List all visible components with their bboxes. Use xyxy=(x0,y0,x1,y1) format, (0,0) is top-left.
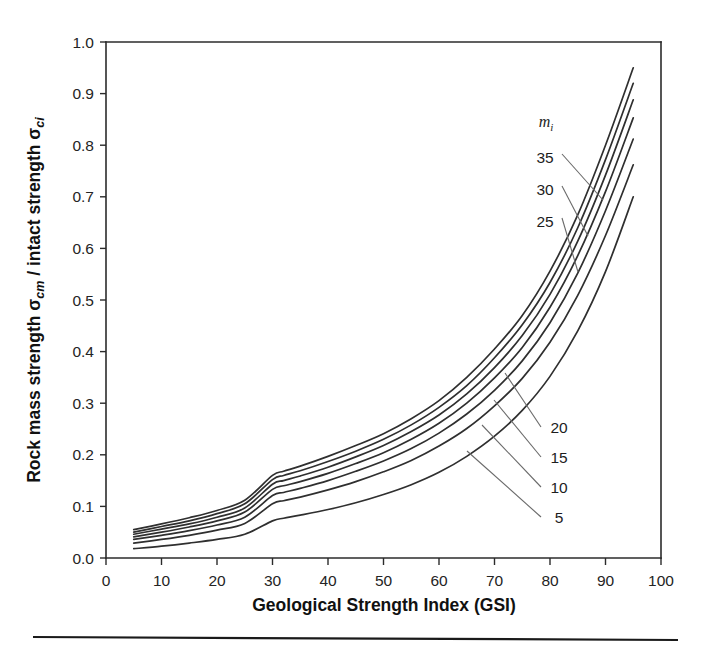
curve-label-25: 25 xyxy=(536,213,553,230)
y-title-lead: Rock mass strength xyxy=(24,311,44,483)
y-tick-label-5: 0.5 xyxy=(72,292,94,309)
legend-title-subscript: i xyxy=(550,121,553,133)
y-title-sub-cm: cm xyxy=(33,281,47,299)
curve-label-30: 30 xyxy=(536,181,554,198)
y-tick-label-10: 1.0 xyxy=(72,34,94,51)
figure-container: 0.00.10.20.30.40.50.60.70.80.91.0 010203… xyxy=(0,0,703,648)
x-tick-label-7: 70 xyxy=(486,572,504,589)
y-tick-label-2: 0.2 xyxy=(72,446,94,463)
x-tick-label-5: 50 xyxy=(375,572,393,589)
legend-title-letter: m xyxy=(539,113,551,130)
curve-label-15: 15 xyxy=(550,449,567,466)
y-title-sigma-ci: σ xyxy=(24,128,44,140)
y-tick-label-4: 0.4 xyxy=(72,343,94,360)
y-title-middle: / intact strength xyxy=(24,140,44,281)
curve-label-5: 5 xyxy=(555,509,564,526)
y-tick-label-8: 0.8 xyxy=(72,137,94,154)
x-tick-label-1: 10 xyxy=(153,572,171,589)
x-tick-label-10: 100 xyxy=(648,572,674,589)
curve-label-20: 20 xyxy=(550,419,568,436)
chart-svg: 0.00.10.20.30.40.50.60.70.80.91.0 010203… xyxy=(0,0,703,648)
x-tick-label-0: 0 xyxy=(102,572,111,589)
x-tick-label-2: 20 xyxy=(208,572,226,589)
x-tick-label-8: 80 xyxy=(541,572,559,589)
x-axis-title: Geological Strength Index (GSI) xyxy=(252,595,516,615)
y-tick-label-6: 0.6 xyxy=(72,240,94,257)
y-tick-label-3: 0.3 xyxy=(72,395,94,412)
x-tick-label-4: 40 xyxy=(319,572,337,589)
x-tick-label-3: 30 xyxy=(264,572,282,589)
curve-label-35: 35 xyxy=(536,149,553,166)
x-tick-label-9: 90 xyxy=(597,572,615,589)
y-tick-label-1: 0.1 xyxy=(72,498,94,515)
x-tick-label-6: 60 xyxy=(430,572,448,589)
y-axis-title: Rock mass strength σcm / intact strength… xyxy=(24,117,47,483)
curve-label-10: 10 xyxy=(550,479,568,496)
y-tick-label-0: 0.0 xyxy=(72,550,94,567)
y-title-sub-ci: ci xyxy=(33,117,47,128)
y-tick-label-7: 0.7 xyxy=(72,188,94,205)
y-tick-label-9: 0.9 xyxy=(72,85,94,102)
y-title-sigma-cm: σ xyxy=(24,299,44,311)
